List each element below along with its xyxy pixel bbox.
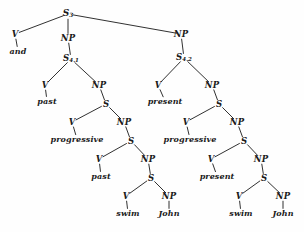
category-node-np: NP bbox=[92, 81, 106, 90]
tree-edges-layer bbox=[0, 0, 304, 232]
category-node-np: NP bbox=[162, 192, 176, 201]
terminal-node-past: past bbox=[91, 172, 110, 180]
tree-edge bbox=[215, 143, 239, 156]
tree-edge bbox=[161, 62, 180, 82]
node-subscript: 4.2 bbox=[182, 56, 192, 62]
terminal-node-john: John bbox=[158, 209, 179, 217]
category-node-np: NP bbox=[230, 118, 244, 127]
category-node-s3: S3 bbox=[63, 9, 74, 19]
category-node-s4-1: S4.1 bbox=[63, 54, 79, 64]
tree-edge bbox=[19, 16, 63, 33]
tree-edge bbox=[76, 106, 101, 119]
terminal-node-progressive: progressive bbox=[51, 135, 104, 143]
node-subscript: 4.1 bbox=[69, 57, 79, 63]
category-node-np: NP bbox=[276, 192, 290, 201]
terminal-node-present: present bbox=[148, 97, 183, 105]
category-node-s: S bbox=[128, 137, 134, 146]
tree-edge bbox=[190, 106, 214, 119]
category-node-v: V bbox=[183, 118, 190, 127]
category-node-s: S bbox=[216, 100, 222, 109]
tree-edge bbox=[73, 15, 176, 33]
syntax-tree-diagram: S3VandNPNPS4.1S4.2VpastNPSVpresentNPSVpr… bbox=[0, 0, 304, 232]
category-node-v: V bbox=[42, 81, 49, 90]
category-node-np: NP bbox=[117, 118, 131, 127]
category-node-np: NP bbox=[254, 155, 268, 164]
terminal-node-progressive: progressive bbox=[164, 135, 217, 143]
terminal-node-present: present bbox=[200, 172, 235, 180]
terminal-node-swim: swim bbox=[116, 209, 139, 217]
category-node-v: V bbox=[208, 155, 215, 164]
tree-edge bbox=[130, 181, 147, 193]
terminal-node-john: John bbox=[272, 209, 293, 217]
category-node-v: V bbox=[96, 155, 103, 164]
tree-edge bbox=[48, 63, 67, 82]
category-node-v: V bbox=[123, 192, 130, 201]
category-node-v: V bbox=[69, 118, 76, 127]
category-node-np: NP bbox=[141, 155, 155, 164]
category-node-s: S bbox=[241, 137, 247, 146]
category-node-v: V bbox=[236, 192, 243, 201]
terminal-node-and: and bbox=[10, 47, 27, 55]
category-node-s: S bbox=[103, 100, 109, 109]
tree-edge bbox=[243, 181, 260, 193]
category-node-np: NP bbox=[61, 34, 75, 43]
category-node-np: NP bbox=[205, 81, 219, 90]
category-node-s: S bbox=[148, 174, 154, 183]
category-node-s4-2: S4.2 bbox=[176, 53, 192, 63]
node-subscript: 3 bbox=[69, 12, 73, 18]
category-node-v: V bbox=[155, 81, 162, 90]
category-node-v: V bbox=[12, 30, 19, 39]
terminal-node-past: past bbox=[37, 97, 56, 105]
tree-edge bbox=[103, 144, 126, 157]
category-node-np: NP bbox=[174, 30, 188, 39]
category-node-s: S bbox=[261, 174, 267, 183]
terminal-node-swim: swim bbox=[229, 209, 252, 217]
